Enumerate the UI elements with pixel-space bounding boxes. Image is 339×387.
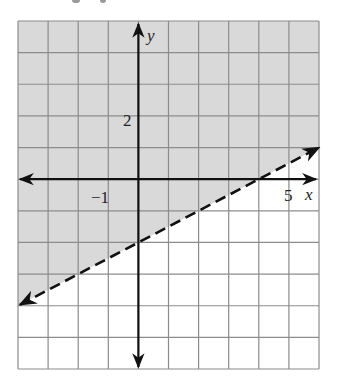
x-tick-label-5: 5	[284, 186, 293, 205]
inequality-graph: y x −1 5 2	[0, 0, 339, 387]
y-tick-label-2: 2	[123, 111, 132, 130]
plot-area	[18, 21, 319, 369]
x-axis-label: x	[304, 185, 313, 204]
y-axis-label: y	[145, 26, 155, 45]
x-tick-label-neg1: −1	[91, 188, 109, 207]
